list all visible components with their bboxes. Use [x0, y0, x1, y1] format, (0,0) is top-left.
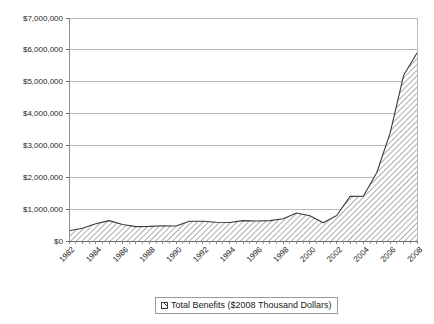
x-tick-label: 1996 [245, 245, 264, 264]
y-tick-label: $2,000,000 [23, 173, 64, 182]
area-chart: $0$1,000,000$2,000,000$3,000,000$4,000,0… [0, 0, 434, 324]
x-tick-label: 2000 [298, 245, 317, 264]
x-axis-labels: 1982198419861988199019921994199619982000… [57, 245, 424, 264]
x-tick-label: 2006 [379, 245, 398, 264]
legend-label: Total Benefits ($2008 Thousand Dollars) [171, 300, 331, 311]
y-tick-label: $0 [54, 237, 63, 246]
y-tick-label: $1,000,000 [23, 205, 64, 214]
x-tick-label: 1992 [191, 245, 210, 264]
x-tick-label: 2002 [325, 245, 344, 264]
y-tick-label: $4,000,000 [23, 109, 64, 118]
x-tick-label: 1994 [218, 245, 237, 264]
legend-swatch-icon [161, 302, 168, 309]
x-tick-label: 2008 [405, 245, 424, 264]
x-tick-label: 1982 [57, 245, 76, 264]
y-tick-label: $3,000,000 [23, 141, 64, 150]
x-tick-label: 1998 [272, 245, 291, 264]
x-tick-label: 1988 [138, 245, 157, 264]
y-tick-label: $5,000,000 [23, 77, 64, 86]
x-tick-label: 1990 [165, 245, 184, 264]
x-tick-label: 2004 [352, 245, 371, 264]
x-tick-label: 1986 [111, 245, 130, 264]
chart-container: $0$1,000,000$2,000,000$3,000,000$4,000,0… [0, 0, 434, 324]
chart-legend: Total Benefits ($2008 Thousand Dollars) [155, 297, 338, 314]
x-tick-label: 1984 [84, 245, 103, 264]
y-tick-label: $6,000,000 [23, 45, 64, 54]
y-tick-label: $7,000,000 [23, 14, 64, 23]
y-axis-ticks: $0$1,000,000$2,000,000$3,000,000$4,000,0… [23, 14, 69, 246]
